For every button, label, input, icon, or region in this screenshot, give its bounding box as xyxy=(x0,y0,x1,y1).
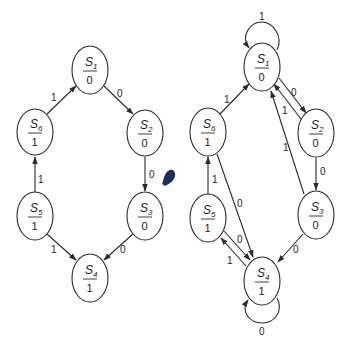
state-diagram-canvas: 1 0 0 0 1 1 S1 0 S2 0 S3 0 S4 xyxy=(0,0,352,353)
left-label-s6-s1: 1 xyxy=(51,92,57,103)
left-label-s2-s3: 0 xyxy=(149,169,155,180)
right-label-s6-s4: 0 xyxy=(237,198,243,209)
right-node-s1: S1 0 xyxy=(244,43,280,91)
right-label-s4-self: 0 xyxy=(259,326,265,337)
left-node-s6: S6 1 xyxy=(17,109,53,155)
right-node-s3: S3 0 xyxy=(298,191,334,239)
left-s6-output: 1 xyxy=(32,136,38,148)
right-label-s1-s2: 0 xyxy=(291,87,297,98)
left-edges xyxy=(35,86,145,260)
right-label-s3-s1: 1 xyxy=(283,142,289,153)
left-s3-output: 0 xyxy=(142,220,148,232)
left-label-s5-s6: 1 xyxy=(38,174,44,185)
left-node-s5: S5 1 xyxy=(17,192,53,240)
left-node-s3: S3 0 xyxy=(127,192,163,240)
right-label-s1-self: 1 xyxy=(259,11,265,22)
left-label-s1-s2: 0 xyxy=(117,88,123,99)
right-label-s2-s1: 1 xyxy=(282,105,288,116)
right-s2-output: 0 xyxy=(313,137,319,149)
right-s3-output: 0 xyxy=(313,219,319,231)
left-s2-output: 0 xyxy=(142,137,148,149)
right-node-s2: S2 0 xyxy=(298,109,334,157)
right-node-s5: S5 1 xyxy=(190,194,226,242)
right-label-s5-s1: 1 xyxy=(212,174,218,185)
right-label-s5-s4: 0 xyxy=(237,234,243,245)
left-node-s4: S4 1 xyxy=(72,254,108,302)
left-label-s3-s4: 0 xyxy=(120,244,126,255)
ink-blot xyxy=(162,170,175,186)
right-s6-output: 1 xyxy=(205,136,211,148)
right-state-diagram: 1 1 0 1 1 0 0 1 0 1 0 0 S1 0 S2 0 S3 xyxy=(190,11,334,337)
right-s1-output: 0 xyxy=(259,71,265,83)
left-state-diagram: 1 0 0 0 1 1 S1 0 S2 0 S3 0 S4 xyxy=(17,46,163,302)
right-label-s2-s3: 0 xyxy=(320,166,326,177)
left-edge-s3-s4 xyxy=(104,234,133,260)
right-s5-output: 1 xyxy=(205,222,211,234)
right-label-s4-s5: 1 xyxy=(227,255,233,266)
left-s1-output: 0 xyxy=(87,74,93,86)
left-s4-output: 1 xyxy=(87,282,93,294)
left-s5-output: 1 xyxy=(32,220,38,232)
right-node-s6: S6 1 xyxy=(190,108,226,156)
left-label-s5-s4: 1 xyxy=(51,244,57,255)
right-s4-output: 1 xyxy=(259,285,265,297)
left-node-s2: S2 0 xyxy=(127,110,163,156)
right-label-s3-s4: 0 xyxy=(293,244,299,255)
right-edge-s3-s4 xyxy=(278,234,303,262)
right-node-s4: S4 1 xyxy=(244,257,280,305)
right-label-s6-s1: 1 xyxy=(224,94,230,105)
left-node-s1: S1 0 xyxy=(72,46,108,94)
